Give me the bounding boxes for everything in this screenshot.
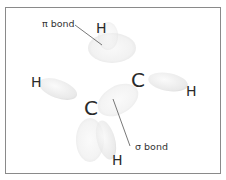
atom-c-left: C [84,98,98,118]
pi-bond-label: π bond [42,19,75,29]
atom-h-bottom: H [112,153,123,167]
sigma-bond-label: σ bond [135,142,168,152]
ch-orbital-right [147,70,190,95]
atom-h-top: H [96,21,107,35]
atom-c-right: C [131,70,145,90]
atom-h-left: H [31,75,42,89]
atom-h-right: H [186,84,197,98]
ch-orbital-left [36,74,80,105]
